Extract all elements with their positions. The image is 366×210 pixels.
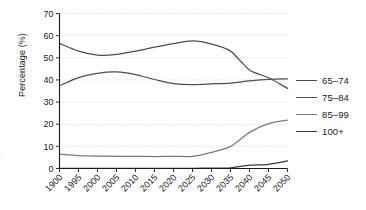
series-line-65-74 — [60, 41, 288, 88]
chart-figure: · Percentage (%) 010203040506070 1900199… — [0, 0, 366, 210]
legend-item-100plus[interactable]: 100+ — [296, 123, 366, 140]
series-line-75-84 — [60, 72, 288, 86]
legend-item-85-99[interactable]: 85–99 — [296, 106, 366, 123]
y-tick-label: 50 — [43, 53, 53, 63]
x-tick-label: 2045 — [252, 172, 273, 193]
y-tick-label: 60 — [43, 31, 53, 41]
x-tick-label: 1900 — [43, 172, 64, 193]
x-tick-label: 2040 — [233, 172, 254, 193]
legend-item-label: 100+ — [322, 126, 344, 137]
y-tick-label: 40 — [43, 75, 53, 85]
legend-item-label: 75–84 — [322, 92, 349, 103]
y-tick-label: 70 — [43, 9, 53, 19]
series-line-100plus — [60, 161, 288, 168]
series-line-85-99 — [60, 120, 288, 156]
y-tick-label: 30 — [43, 97, 53, 107]
legend-item-65-74[interactable]: 65–74 — [296, 72, 366, 89]
legend-line-swatch — [296, 97, 317, 98]
legend-item-label: 65–74 — [322, 75, 349, 86]
x-axis-ticks: 1900199520002005201020152020202520302035… — [43, 169, 292, 194]
axis-lines — [60, 14, 288, 169]
legend-line-swatch — [296, 131, 317, 132]
x-tick-label: 2000 — [81, 172, 102, 193]
x-tick-label: 2015 — [138, 172, 159, 193]
x-tick-label: 2025 — [176, 172, 197, 193]
legend-item-75-84[interactable]: 75–84 — [296, 89, 366, 106]
x-tick-label: 2050 — [271, 172, 292, 193]
x-tick-label: 2030 — [195, 172, 216, 193]
y-tick-label: 20 — [43, 119, 53, 129]
legend-line-swatch — [296, 114, 317, 115]
y-tick-label: 0 — [48, 164, 53, 174]
series-lines-group — [60, 41, 288, 168]
x-tick-label: 2035 — [214, 172, 235, 193]
legend-line-swatch — [296, 80, 317, 81]
x-tick-label: 2020 — [157, 172, 178, 193]
y-axis-ticks: 010203040506070 — [43, 9, 59, 174]
chart-legend: 65–7475–8485–99100+ — [296, 72, 366, 140]
legend-item-label: 85–99 — [322, 109, 349, 120]
x-tick-label: 1995 — [62, 172, 83, 193]
x-tick-label: 2010 — [119, 172, 140, 193]
y-tick-label: 10 — [43, 142, 53, 152]
x-tick-label: 2005 — [100, 172, 121, 193]
